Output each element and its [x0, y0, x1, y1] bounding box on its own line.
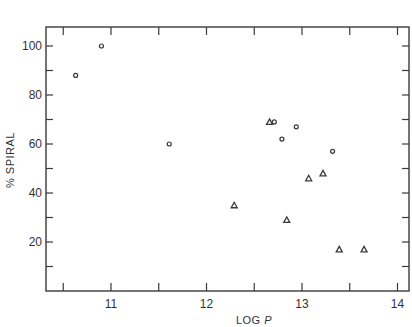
circle-marker	[167, 142, 171, 146]
x-axis-title-text: LOG	[236, 314, 264, 326]
y-tick-label: 60	[29, 137, 43, 151]
plot-border	[46, 27, 409, 291]
y-tick-label: 100	[22, 39, 42, 53]
plot-frame	[46, 27, 409, 291]
y-tick-label: 20	[29, 235, 43, 249]
data-points	[74, 44, 367, 252]
scatter-chart: 11121314 20406080100 LOG P % SPIRAL	[0, 0, 412, 327]
circle-marker	[74, 73, 78, 77]
y-axis-title: % SPIRAL	[4, 132, 16, 188]
triangle-marker	[284, 217, 290, 223]
circle-marker	[294, 125, 298, 129]
triangle-marker	[336, 246, 342, 252]
circle-marker	[331, 149, 335, 153]
triangle-marker	[361, 246, 367, 252]
x-axis-title: LOG P	[236, 314, 272, 326]
x-tick-label: 13	[295, 297, 309, 311]
triangle-marker	[267, 119, 273, 125]
x-axis-title-variable: P	[264, 314, 272, 326]
triangle-marker	[231, 202, 237, 208]
y-tick-label: 40	[29, 186, 43, 200]
x-tick-label: 14	[391, 297, 405, 311]
circle-marker	[99, 44, 103, 48]
y-axis: 20406080100	[22, 39, 409, 267]
triangle-marker	[306, 175, 312, 181]
x-tick-label: 12	[200, 297, 214, 311]
x-tick-label: 11	[105, 297, 118, 311]
x-axis: 11121314	[63, 27, 404, 311]
circle-marker	[272, 120, 276, 124]
triangle-marker	[320, 170, 326, 176]
y-tick-label: 80	[29, 88, 43, 102]
circle-marker	[280, 137, 284, 141]
